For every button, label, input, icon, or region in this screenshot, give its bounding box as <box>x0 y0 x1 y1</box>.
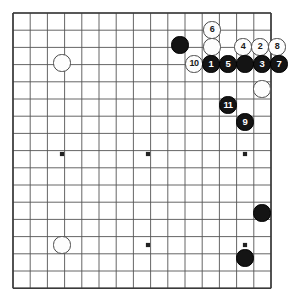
black-stone-move-11-label: 11 <box>223 100 232 110</box>
black-stone-move-9-label: 9 <box>243 117 248 127</box>
white-stone-move-2[interactable]: 2 <box>251 38 268 55</box>
black-stone-move-1[interactable]: 1 <box>202 55 219 72</box>
star-point-right-center <box>243 152 247 156</box>
white-stone-right-plain[interactable] <box>253 80 270 97</box>
black-stone-move-7[interactable]: 7 <box>270 55 287 72</box>
star-point-bottom-center <box>146 243 150 247</box>
star-point-bottom-right <box>243 243 247 247</box>
go-board-container[interactable]: 6428101537119 <box>0 0 295 308</box>
white-stone-lower-left[interactable] <box>53 236 70 253</box>
black-stone-move-11[interactable]: 11 <box>219 96 236 113</box>
white-stone-move-8[interactable]: 8 <box>268 38 285 55</box>
black-stone-move-9[interactable]: 9 <box>236 113 253 130</box>
white-stone-upper-left[interactable] <box>53 54 70 71</box>
white-stone-move-2-label: 2 <box>258 42 263 51</box>
white-stone-move-4-label: 4 <box>241 42 246 51</box>
star-point-center <box>146 152 150 156</box>
star-point-left-center <box>60 152 64 156</box>
white-stone-upper-plain[interactable] <box>203 38 220 55</box>
black-stone-move-1-label: 1 <box>209 59 214 69</box>
black-stone-move-5[interactable]: 5 <box>219 55 236 72</box>
black-stone-upper-right-plain[interactable] <box>171 36 188 53</box>
white-stone-move-4[interactable]: 4 <box>234 38 251 55</box>
black-stone-lower-right-upper[interactable] <box>253 204 270 221</box>
black-stone-lower-right-lower[interactable] <box>236 249 253 266</box>
white-stone-move-6[interactable]: 6 <box>203 21 220 38</box>
black-stone-row-plain[interactable] <box>236 55 253 72</box>
white-stone-move-8-label: 8 <box>275 42 280 51</box>
white-stone-move-10[interactable]: 10 <box>185 55 202 72</box>
black-stone-move-5-label: 5 <box>226 59 231 69</box>
black-stone-move-7-label: 7 <box>277 59 282 69</box>
white-stone-move-6-label: 6 <box>210 25 215 34</box>
black-stone-move-3-label: 3 <box>260 59 265 69</box>
black-stone-move-3[interactable]: 3 <box>253 55 270 72</box>
white-stone-move-10-label: 10 <box>189 59 198 68</box>
